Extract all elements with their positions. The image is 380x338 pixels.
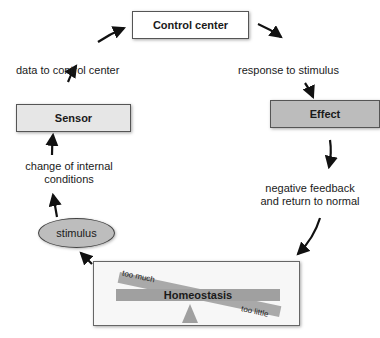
homeostasis-beam: Homeostasis xyxy=(116,289,280,301)
effect-node: Effect xyxy=(270,100,380,128)
label-response-to-stimulus: response to stimulus xyxy=(238,64,339,77)
control-center-label: Control center xyxy=(153,19,228,31)
stimulus-label: stimulus xyxy=(56,227,96,239)
arrow-to-effect xyxy=(305,83,313,97)
arrow-from-stimulus xyxy=(53,195,57,217)
homeostasis-panel: Homeostasis too much too little xyxy=(93,261,300,326)
homeostasis-label: Homeostasis xyxy=(164,289,232,301)
label-change-of-internal-conditions: change of internal conditions xyxy=(4,160,134,186)
control-center-node: Control center xyxy=(132,11,249,39)
fulcrum-triangle xyxy=(182,304,198,323)
arrow-effect-down xyxy=(329,140,331,167)
arrow-to-sensor xyxy=(52,135,53,155)
label-change-line1: change of internal xyxy=(4,160,134,173)
label-data-to-control-center: data to control center xyxy=(16,64,119,77)
sensor-node: Sensor xyxy=(16,104,131,132)
label-feedback-line2: and return to normal xyxy=(250,195,370,208)
stimulus-node: stimulus xyxy=(38,218,115,248)
sensor-label: Sensor xyxy=(55,112,92,124)
arrow-from-control-center xyxy=(258,24,281,37)
label-negative-feedback: negative feedback and return to normal xyxy=(250,182,370,208)
effect-label: Effect xyxy=(310,108,341,120)
label-change-line2: conditions xyxy=(4,173,134,186)
label-feedback-line1: negative feedback xyxy=(250,182,370,195)
arrow-to-homeostasis xyxy=(298,218,320,254)
arrow-to-stimulus xyxy=(81,253,92,264)
arrow-to-control-center xyxy=(98,28,124,42)
